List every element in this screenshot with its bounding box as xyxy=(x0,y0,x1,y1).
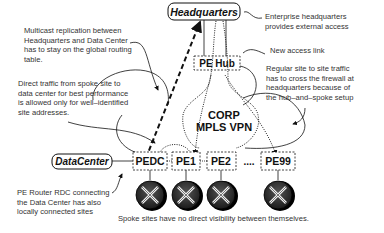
annotation-line: PE Router RDC connecting xyxy=(17,188,109,198)
pedc-label: PEDC xyxy=(135,155,165,167)
multicast-path xyxy=(146,22,200,158)
headquarters-label: Headquarters xyxy=(170,6,238,18)
multicast-leader xyxy=(130,42,158,90)
hq-annotation-leader xyxy=(244,12,262,19)
new-access-annotation: New access link xyxy=(270,46,324,56)
router-icon-pedc xyxy=(136,170,167,211)
headquarters-node: Headquarters xyxy=(168,3,240,20)
multicast-annotation: Multicast replication between Headquarte… xyxy=(24,26,132,64)
pe1-node: PE1 xyxy=(172,152,200,170)
access-link-leader xyxy=(243,50,265,54)
annotation-line: Regular site to site traffic xyxy=(266,64,354,74)
router-icon-pe99 xyxy=(264,170,295,211)
cloud-label-corp: CORP xyxy=(208,109,240,121)
annotation-line: locally connected sites xyxy=(17,207,109,217)
enterprise-hq-annotation: Enterprise headquarters provides externa… xyxy=(265,12,349,31)
pe-hub-node: PE Hub xyxy=(194,56,240,70)
pe99-label: PE99 xyxy=(265,155,291,167)
annotation-line: the Data Center has also xyxy=(17,198,109,208)
annotation-line: Spoke sites have no direct visibility be… xyxy=(118,214,309,224)
annotation-line: New access link xyxy=(270,46,324,56)
pe-hub-label: PE Hub xyxy=(199,58,235,69)
annotation-line: site addresses. xyxy=(18,108,128,118)
annotation-line: Headquarters and Data Center xyxy=(24,36,132,46)
router-icon-pe1 xyxy=(172,170,203,211)
pe-router-leader xyxy=(112,174,122,193)
annotation-line: the hub–and–spoke setup xyxy=(266,93,354,103)
direct-traffic-leader xyxy=(68,122,155,143)
annotation-line: has to stay on the global routing xyxy=(24,45,132,55)
datacenter-label: DataCenter xyxy=(55,156,109,167)
direct-traffic-annotation: Direct traffic from spoke site to data c… xyxy=(18,79,128,117)
router-icon-pe2 xyxy=(207,170,238,211)
pe2-node: PE2 xyxy=(207,152,236,170)
annotation-line: provides external access xyxy=(265,22,349,32)
annotation-line: has to cross the firewall at xyxy=(266,74,354,84)
annotation-line: table. xyxy=(24,55,132,65)
annotation-line: Multicast replication between xyxy=(24,26,132,36)
datacenter-node: DataCenter xyxy=(52,154,112,169)
regular-traffic-annotation: Regular site to site traffic has to cros… xyxy=(266,64,354,102)
annotation-line: headquarters because of xyxy=(266,83,354,93)
annotation-line: Enterprise headquarters xyxy=(265,12,349,22)
annotation-line: data center for best performance xyxy=(18,89,128,99)
pe2-label: PE2 xyxy=(211,155,231,167)
pe-router-annotation: PE Router RDC connecting the Data Center… xyxy=(17,188,109,217)
cloud-label-mpls: MPLS VPN xyxy=(196,121,252,133)
pedc-node: PEDC xyxy=(133,152,167,170)
pe1-label: PE1 xyxy=(176,155,196,167)
spoke-visibility-annotation: Spoke sites have no direct visibility be… xyxy=(118,214,309,224)
pe-ellipsis: .... xyxy=(243,156,254,167)
annotation-line: Direct traffic from spoke site to xyxy=(18,79,128,89)
annotation-line: is allowed only for well–identified xyxy=(18,98,128,108)
pe99-node: PE99 xyxy=(261,152,295,170)
